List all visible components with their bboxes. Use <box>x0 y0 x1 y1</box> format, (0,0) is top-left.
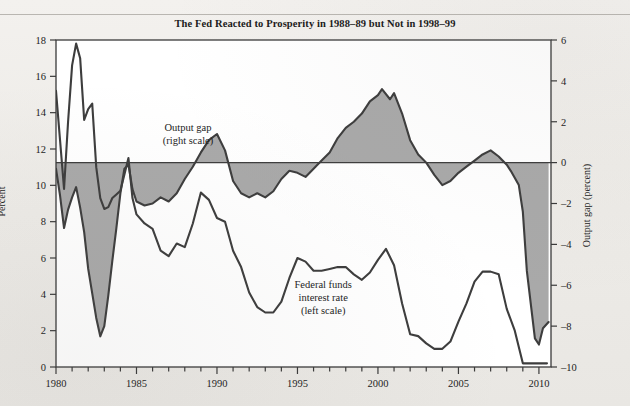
right-tick-label: 2 <box>561 117 566 128</box>
left-tick-label: 6 <box>41 253 46 264</box>
x-tick-label: 2005 <box>448 378 469 389</box>
right-tick-label: –4 <box>560 239 572 250</box>
annotation-line: interest rate <box>299 292 349 303</box>
right-tick-label: –2 <box>560 198 572 209</box>
left-tick-label: 2 <box>41 325 46 336</box>
left-tick-label: 10 <box>36 180 47 191</box>
x-tick-label: 2000 <box>367 378 388 389</box>
annotation-line: (right scale) <box>163 135 214 147</box>
right-tick-label: –6 <box>560 280 572 291</box>
right-tick-label: 6 <box>561 35 566 46</box>
x-tick-label: 1980 <box>46 378 67 389</box>
right-tick-label: 4 <box>561 76 567 87</box>
x-tick-label: 1990 <box>206 378 227 389</box>
annotation-line: Federal funds <box>294 279 351 290</box>
left-tick-label: 12 <box>36 144 47 155</box>
fed-funds-annotation: Federal fundsinterest rate(left scale) <box>294 279 351 317</box>
x-tick-label: 2010 <box>528 378 549 389</box>
left-tick-label: 18 <box>36 35 47 46</box>
annotation-line: (left scale) <box>301 305 346 317</box>
right-tick-label: –8 <box>560 321 572 332</box>
left-tick-label: 4 <box>41 289 47 300</box>
left-tick-label: 0 <box>41 362 46 373</box>
left-tick-label: 14 <box>36 107 47 118</box>
annotation-line: Output gap <box>165 122 212 133</box>
left-tick-label: 8 <box>41 216 46 227</box>
right-tick-label: 0 <box>561 157 566 168</box>
x-tick-label: 1995 <box>287 378 308 389</box>
chart-plot: 024681012141618–10–8–6–4–202461980198519… <box>0 0 630 406</box>
output-gap-annotation: Output gap(right scale) <box>163 122 214 147</box>
left-tick-label: 16 <box>36 71 47 82</box>
right-tick-label: –10 <box>560 362 577 373</box>
chart-figure: The Fed Reacted to Prosperity in 1988–89… <box>0 0 630 406</box>
x-tick-label: 1985 <box>126 378 147 389</box>
plot-background <box>56 40 551 367</box>
